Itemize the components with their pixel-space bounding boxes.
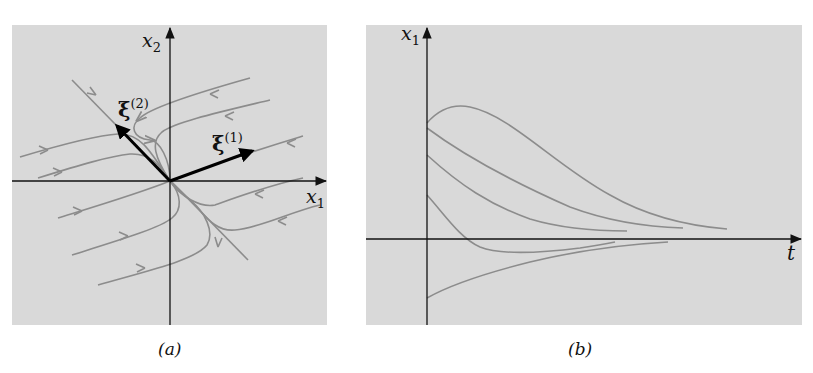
panel-b-curves: [427, 106, 727, 298]
chevron-icon: [73, 207, 82, 215]
chevron-icon: [119, 232, 128, 240]
eigenvector-xi1-arrow: [170, 151, 252, 181]
caption-b: (b): [568, 339, 592, 359]
trajectory-ll-5: [98, 181, 210, 285]
trajectory-ur-5: [170, 181, 320, 230]
x1-axis-label-b: x1: [401, 22, 420, 48]
trajectory-ll-4: [72, 181, 179, 255]
solution-curve-2: [427, 128, 683, 228]
t-axis-label: t: [787, 241, 796, 265]
trajectory-ll-2: [38, 154, 170, 181]
caption-a: (a): [158, 339, 181, 359]
solution-curve-4: [427, 195, 615, 252]
trajectory-ll-3: [58, 181, 170, 218]
solution-curve-5: [427, 242, 668, 298]
figure-drawing: x2 x1 ξ(2) ξ(1) x1 t: [0, 0, 813, 373]
eigenvector-xi2-label: ξ(2): [118, 96, 149, 122]
chevron-icon: [225, 112, 234, 120]
eigenvector-xi1-label: ξ(1): [212, 130, 243, 156]
eigenvector-xi2-arrow: [117, 126, 170, 181]
x2-axis-label: x2: [142, 29, 161, 55]
solution-curve-3: [427, 155, 627, 231]
panel-b-axes: [366, 28, 801, 325]
chevron-icon: [210, 90, 219, 98]
x1-axis-label: x1: [306, 185, 325, 211]
chevron-icon: [87, 87, 96, 95]
chevron-icon: [136, 264, 145, 272]
panel-a-axes: [12, 28, 326, 325]
chevron-icon: [215, 237, 222, 247]
solution-curve-1: [427, 106, 727, 229]
